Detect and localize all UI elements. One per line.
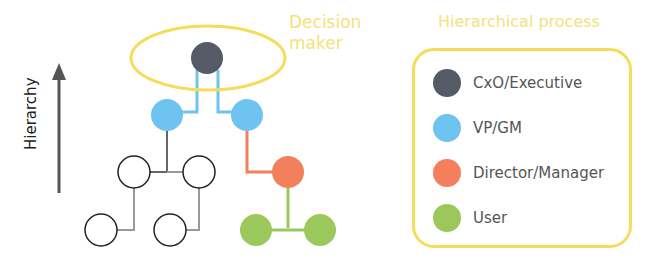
vp-swatch-icon bbox=[433, 114, 461, 142]
decision-maker-label: Decision maker bbox=[289, 12, 361, 54]
node-vp-right bbox=[231, 99, 263, 131]
legend-title: Hierarchical process bbox=[438, 12, 600, 31]
legend-item-director: Director/Manager bbox=[433, 159, 604, 187]
legend-item-vp: VP/GM bbox=[433, 114, 522, 142]
executive-swatch-icon bbox=[433, 69, 461, 97]
legend-label: User bbox=[473, 209, 507, 227]
user-swatch-icon bbox=[433, 204, 461, 232]
node-user-left bbox=[240, 214, 272, 246]
director-swatch-icon bbox=[433, 159, 461, 187]
node-director bbox=[272, 156, 304, 188]
node-neutral bbox=[118, 156, 150, 188]
node-neutral bbox=[85, 214, 117, 246]
node-neutral bbox=[154, 214, 186, 246]
legend-label: Director/Manager bbox=[473, 164, 604, 182]
legend-label: CxO/Executive bbox=[473, 74, 582, 92]
legend-label: VP/GM bbox=[473, 119, 522, 137]
node-vp-left bbox=[151, 99, 183, 131]
legend-item-executive: CxO/Executive bbox=[433, 69, 582, 97]
node-user-right bbox=[304, 214, 336, 246]
hierarchy-axis-label: Hierarchy bbox=[22, 77, 40, 150]
legend-item-user: User bbox=[433, 204, 507, 232]
hierarchy-arrow-head bbox=[52, 63, 66, 80]
node-executive bbox=[191, 42, 223, 74]
node-neutral bbox=[183, 156, 215, 188]
legend: CxO/Executive VP/GM Director/Manager Use… bbox=[412, 48, 632, 248]
